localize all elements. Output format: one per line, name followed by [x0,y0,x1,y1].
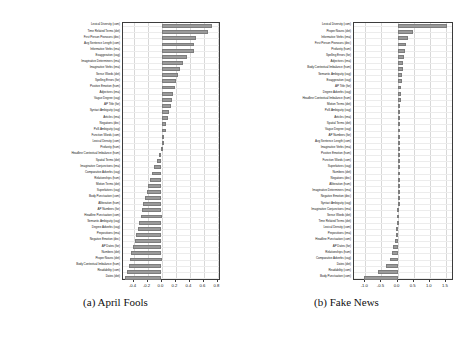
bar [162,61,183,65]
bar [130,258,162,262]
bar [398,24,447,28]
row-gridline [354,229,452,230]
row-gridline [354,81,452,82]
row-gridline [123,247,219,248]
bar [162,55,188,59]
category-label: Alliteration (hum) [98,202,120,205]
category-label: Headline Punctuation (com) [84,214,120,217]
category-label: Exaggeration (vag) [96,54,120,57]
category-label: Time Related Terms (det) [88,30,120,33]
row-gridline [354,186,452,187]
gridline [365,23,366,279]
bar [395,239,398,243]
category-label: PoS Ambiguity (vag) [94,128,120,131]
row-gridline [354,167,452,168]
category-label: Body Punctuation (com) [89,195,120,198]
category-label: Degree Adverbs (vag) [323,91,351,94]
category-label: Alliteration (hum) [329,183,351,186]
category-label: Degree Adverbs (vag) [92,226,120,229]
category-label: Headline Punctuation (com) [315,238,351,241]
category-label: Articles (ima) [334,116,351,119]
caption-b: (b) Fake News [231,296,462,308]
bar [148,184,161,188]
row-gridline [354,266,452,267]
category-label: Relationships (hum) [94,177,120,180]
row-gridline [123,167,219,168]
category-label: Readability (com) [98,269,121,272]
bar [398,122,400,126]
bar [398,116,401,120]
x-tick-label: -0.4 [123,283,143,288]
bar [398,79,402,83]
row-gridline [123,26,219,27]
row-gridline [123,235,219,236]
row-gridline [354,137,452,138]
bar [398,86,402,90]
row-gridline [354,260,452,261]
gridline [381,23,382,279]
bar [398,110,401,114]
bar [141,215,162,219]
subfigure-april-fools: Lexical Diversity (com)Time Related Term… [0,0,231,339]
x-tick-mark [133,280,134,282]
row-gridline [354,38,452,39]
gridline [176,23,177,279]
bar [127,270,161,274]
row-gridline [123,192,219,193]
row-gridline [354,124,452,125]
bar [162,43,195,47]
bar [154,165,162,169]
category-label: Adjectives (ima) [99,91,120,94]
bar [398,104,401,108]
row-gridline [123,124,219,125]
gridline [414,23,415,279]
row-gridline [354,223,452,224]
bar [398,172,400,176]
bar [161,147,163,151]
bar [398,49,405,53]
category-label: Sense Words (det) [96,73,120,76]
row-gridline [354,272,452,273]
gridline [148,23,149,279]
x-tick-label: -1.0 [354,283,374,288]
category-label: Relationships (hum) [325,251,351,254]
gridline [134,23,135,279]
category-label: Body Contextual Imbalance (hum) [307,66,351,69]
category-label: Prepositions (ima) [328,232,351,235]
gridline [446,23,447,279]
row-gridline [123,186,219,187]
row-gridline [123,229,219,230]
row-gridline [123,174,219,175]
category-label: Motion Terms (det) [96,183,120,186]
category-label: Spatial Terms (det) [327,122,351,125]
bar [162,104,171,108]
gridline [190,23,191,279]
rowlines-b [354,23,452,279]
category-label: Comparative Adverbs (vag) [85,171,120,174]
bar [397,208,399,212]
row-gridline [354,161,452,162]
category-label: Sense Words (det) [327,214,351,217]
category-label: Articles (ima) [103,116,120,119]
category-label: Imaginative Verbs (ima) [321,146,351,149]
row-gridline [123,112,219,113]
row-gridline [123,88,219,89]
bar [162,36,196,40]
row-gridline [354,278,452,279]
x-tick-mark [445,280,446,282]
bar [398,141,400,145]
category-label: AP Dates (for) [102,245,120,248]
gridline [398,23,399,279]
bar [393,245,397,249]
bar [162,122,167,126]
gridline [204,23,205,279]
bar [398,43,406,47]
category-label: Headline Contextual Imbalance (hum) [71,152,120,155]
row-gridline [123,266,219,267]
row-gridline [354,112,452,113]
category-label: Proper Nouns (det) [95,257,120,260]
bar [398,178,400,182]
category-label: Informative Verbs (ima) [90,48,120,51]
bar [138,227,162,231]
category-label: Semantic Ambiguity (vag) [318,73,351,76]
